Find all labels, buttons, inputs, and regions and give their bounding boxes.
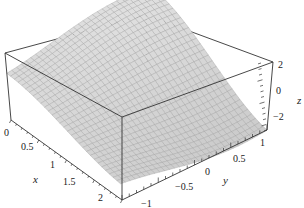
x-tick-0.5: 0.5 [21,141,34,152]
surface-mesh [7,0,267,184]
y-tick-0.5: 0.5 [233,153,246,164]
x-tick-0: 0 [4,127,9,138]
z-tick-0: 0 [276,85,281,96]
z-axis-label: z [296,94,302,106]
z-tick-2: 2 [278,59,283,70]
x-axis-label: x [32,173,38,185]
y-tick-neg1: −1 [141,198,152,208]
y-tick-0: 0 [205,166,210,177]
z-tick-labels: 2 0 −2 [273,59,284,122]
surface-plot: 0 0.5 1 1.5 2 −1 −0.5 0 0.5 1 2 0 −2 x y… [0,0,304,208]
x-tick-2: 2 [98,192,103,203]
plot-canvas: 0 0.5 1 1.5 2 −1 −0.5 0 0.5 1 2 0 −2 x y… [0,0,304,208]
y-tick-neg0.5: −0.5 [175,181,193,192]
x-tick-1.5: 1.5 [63,176,76,187]
x-tick-1: 1 [50,159,55,170]
y-axis-label: y [222,174,228,186]
z-tick-neg2: −2 [273,111,284,122]
y-tick-1: 1 [260,137,265,148]
